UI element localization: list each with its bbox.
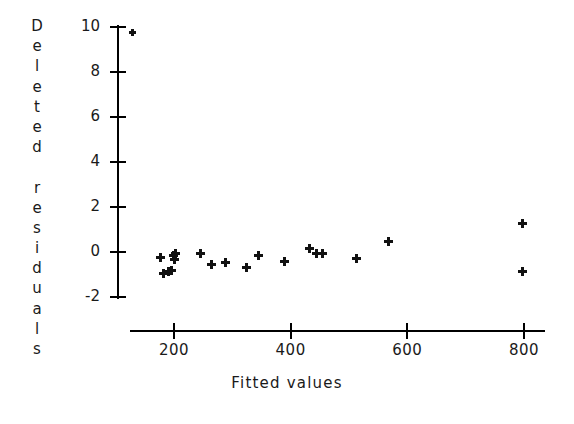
y-tick-label: 10 (62, 17, 100, 35)
x-tick (406, 323, 408, 339)
data-point (318, 249, 327, 258)
y-tick-label: 4 (62, 152, 100, 170)
data-point (167, 266, 176, 275)
y-tick (110, 26, 126, 28)
data-point (254, 251, 263, 260)
y-axis-title-char: e (32, 77, 41, 97)
y-axis-title-char: e (32, 36, 41, 56)
y-axis-title-char: l (35, 319, 39, 339)
y-tick (110, 161, 126, 163)
y-tick (110, 206, 126, 208)
y-axis-title-char: l (35, 56, 39, 76)
y-axis-title-char: D (31, 16, 43, 36)
y-axis-title-char: a (32, 299, 41, 319)
y-axis-title-char: t (34, 97, 40, 117)
y-tick-label: -2 (62, 287, 100, 305)
x-tick-label: 400 (261, 341, 321, 359)
data-point (207, 260, 216, 269)
data-point (242, 263, 251, 272)
x-tick (523, 323, 525, 339)
y-tick (110, 251, 126, 253)
data-point (196, 249, 205, 258)
data-point (221, 258, 230, 267)
y-axis-title-char: e (32, 198, 41, 218)
x-axis-title: Fitted values (0, 374, 574, 392)
data-point (171, 249, 180, 258)
y-tick (110, 296, 126, 298)
x-tick (173, 323, 175, 339)
y-axis-title-char: s (33, 339, 41, 359)
y-axis-title-char: d (32, 137, 42, 157)
y-tick-label: 8 (62, 62, 100, 80)
data-point (280, 257, 289, 266)
data-point (352, 254, 361, 263)
y-axis-title-char (35, 157, 40, 177)
data-point (156, 253, 165, 262)
y-tick-label: 0 (62, 242, 100, 260)
x-tick-label: 200 (144, 341, 204, 359)
y-tick (110, 116, 126, 118)
y-axis-title-char: r (34, 178, 40, 198)
y-axis-title-char: u (32, 278, 42, 298)
y-tick (110, 71, 126, 73)
y-tick-label: 6 (62, 107, 100, 125)
x-tick-label: 600 (377, 341, 437, 359)
scatter-plot: Deleted residuals 1086420-2 200400600800… (0, 0, 574, 424)
y-tick-label: 2 (62, 197, 100, 215)
x-tick (290, 323, 292, 339)
y-axis-title-char: i (35, 238, 39, 258)
x-axis-line (130, 330, 545, 332)
data-point (384, 237, 393, 246)
x-tick-label: 800 (494, 341, 554, 359)
y-axis-title-char: d (32, 258, 42, 278)
y-axis-title: Deleted residuals (26, 16, 48, 359)
data-point (518, 219, 527, 228)
y-axis-title-char: s (33, 218, 41, 238)
y-axis-title-char: e (32, 117, 41, 137)
data-point (129, 29, 136, 36)
data-point (518, 267, 527, 276)
